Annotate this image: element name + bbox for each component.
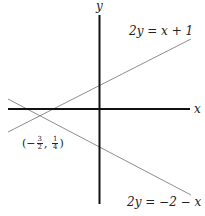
eq2-equals: = — [141, 195, 159, 209]
equation-label-line-2: 2y = −2 − x — [127, 196, 201, 208]
fraction-y: 14 — [52, 136, 58, 151]
eq1-equals: = — [143, 24, 161, 38]
intersection-label: (−32, 14) — [22, 136, 64, 151]
equation-label-line-1: 2y = x + 1 — [129, 25, 193, 37]
eq2-rhs: −2 − x — [159, 195, 201, 209]
fraction-x-den: 2 — [37, 144, 43, 151]
intersection-close: ) — [59, 137, 63, 150]
y-axis-label: y — [96, 0, 103, 12]
fraction-x: 32 — [37, 136, 43, 151]
fraction-y-den: 4 — [52, 144, 58, 151]
eq1-lhs: 2y — [129, 24, 143, 38]
intersection-sep: , — [44, 137, 51, 150]
intersection-open: (− — [22, 137, 36, 150]
eq1-rhs: x + 1 — [161, 24, 193, 38]
eq2-lhs: 2y — [127, 195, 141, 209]
x-axis-label: x — [194, 103, 201, 115]
